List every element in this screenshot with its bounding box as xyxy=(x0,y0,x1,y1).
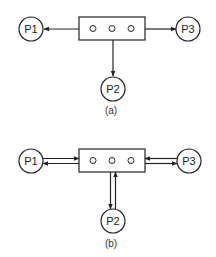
node-p2-a: P2 xyxy=(101,77,125,101)
caption-b: (b) xyxy=(105,238,117,249)
channel-box-a xyxy=(79,17,145,40)
node-label: P3 xyxy=(181,23,194,35)
node-p3-a: P3 xyxy=(176,17,200,41)
node-label: P1 xyxy=(24,23,37,35)
diagram-canvas: P1 P3 P2 (a) P1 xyxy=(0,0,216,257)
node-label: P1 xyxy=(24,155,37,167)
node-p2-b: P2 xyxy=(101,209,125,233)
diagram-b: P1 P3 P2 (b) xyxy=(19,149,201,249)
caption-a: (a) xyxy=(105,105,117,116)
node-p1-a: P1 xyxy=(19,17,43,41)
node-p3-b: P3 xyxy=(177,149,201,173)
node-p1-b: P1 xyxy=(19,149,43,173)
node-label: P2 xyxy=(106,83,119,95)
diagram-a: P1 P3 P2 (a) xyxy=(19,17,200,116)
node-label: P3 xyxy=(182,155,195,167)
channel-box-b xyxy=(79,149,145,172)
node-label: P2 xyxy=(106,215,119,227)
